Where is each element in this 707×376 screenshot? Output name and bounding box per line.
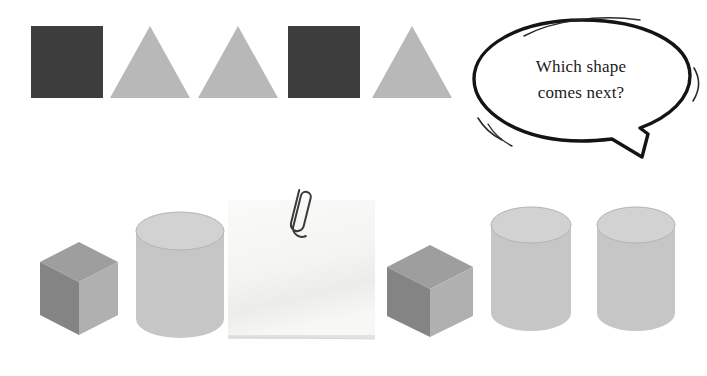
cylinder-2: [488, 206, 574, 333]
paperclip-icon: [280, 187, 320, 245]
2d-pattern-sequence: [0, 0, 470, 115]
speech-bubble: Which shape comes next?: [462, 8, 702, 176]
cylinder-glyph: [133, 211, 227, 340]
cube-glyph: [385, 243, 475, 339]
bubble-accent-lower-2: [488, 124, 512, 146]
bubble-accent-right: [693, 68, 698, 101]
cylinder-top-ellipse: [136, 212, 224, 250]
speech-bubble-line-1: Which shape: [506, 54, 656, 80]
cube-1: [38, 240, 120, 337]
cube-glyph: [38, 240, 120, 337]
triangle-glyph: [198, 26, 278, 98]
triangle-glyph: [372, 26, 452, 98]
cylinder-3: [594, 206, 678, 333]
cylinder-top-ellipse: [491, 207, 571, 243]
puzzle-canvas: Which shape comes next?: [0, 0, 707, 376]
cylinder-glyph: [594, 206, 678, 333]
cylinder-top-ellipse: [597, 207, 675, 243]
dark-square-2: [288, 26, 360, 98]
dark-square-1: [31, 26, 103, 98]
paperclip-glyph: [280, 187, 320, 245]
speech-bubble-text: Which shape comes next?: [506, 54, 656, 107]
cylinder-1: [133, 211, 227, 340]
speech-bubble-line-2: comes next?: [506, 80, 656, 106]
cylinder-glyph: [488, 206, 574, 333]
sticky-note[interactable]: [228, 199, 378, 344]
triangle-glyph: [110, 26, 190, 98]
3d-solids-sequence: [0, 185, 707, 376]
cube-2: [385, 243, 475, 339]
